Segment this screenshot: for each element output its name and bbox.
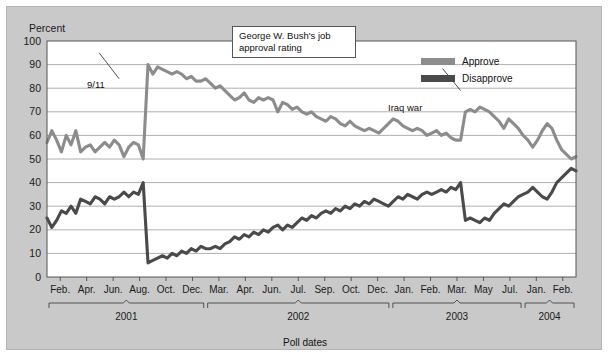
x-tick-label: Jun. xyxy=(104,284,123,295)
x-tick-marks xyxy=(60,277,563,281)
y-tick-label: 0 xyxy=(35,271,41,283)
legend-label-approve: Approve xyxy=(462,56,499,67)
x-tick-label: Jul. xyxy=(502,284,518,295)
y-axis-label: Percent xyxy=(29,22,65,34)
legend-item-approve: Approve xyxy=(421,53,541,70)
x-tick-label: Dec. xyxy=(182,284,203,295)
legend: Approve Disapprove xyxy=(421,53,541,87)
chart-title-line2: approval rating xyxy=(239,42,350,54)
y-tick-labels: 0102030405060708090100 xyxy=(23,35,41,283)
y-tick-label: 60 xyxy=(29,129,41,141)
x-tick-label: Dec. xyxy=(367,284,388,295)
x-tick-label: Mar. xyxy=(209,284,228,295)
legend-swatch-disapprove xyxy=(421,75,455,82)
chart-title-line1: George W. Bush's job xyxy=(239,30,350,42)
y-tick-label: 30 xyxy=(29,200,41,212)
y-tick-label: 50 xyxy=(29,153,41,165)
x-tick-label: May xyxy=(474,284,493,295)
annotation-iraq-war: Iraq war xyxy=(388,102,422,113)
x-tick-label: Mar. xyxy=(447,284,466,295)
y-tick-label: 100 xyxy=(23,35,41,47)
figure-panel: 0102030405060708090100 Feb.Apr.Jun.Aug.O… xyxy=(6,6,602,350)
year-group-label: 2003 xyxy=(446,311,469,322)
x-axis-label: Poll dates xyxy=(7,337,603,348)
y-tick-label: 40 xyxy=(29,176,41,188)
x-tick-label: Apr. xyxy=(236,284,254,295)
chart-title-box: George W. Bush's job approval rating xyxy=(232,26,356,58)
legend-swatch-approve xyxy=(421,58,455,65)
annotation-911: 9/11 xyxy=(87,79,105,90)
x-tick-label: Feb. xyxy=(421,284,441,295)
x-tick-label: Apr. xyxy=(78,284,96,295)
x-tick-label: Jan. xyxy=(395,284,414,295)
x-tick-label: Feb. xyxy=(553,284,573,295)
y-tick-label: 20 xyxy=(29,223,41,235)
x-tick-labels: Feb.Apr.Jun.Aug.Oct.Dec.Mar.Apr.Jun.Jul.… xyxy=(50,284,573,295)
year-group-label: 2002 xyxy=(287,311,310,322)
x-tick-label: Oct. xyxy=(157,284,175,295)
x-tick-label: Jan. xyxy=(527,284,546,295)
legend-item-disapprove: Disapprove xyxy=(421,70,541,87)
y-tick-label: 70 xyxy=(29,105,41,117)
x-tick-label: Jun. xyxy=(262,284,281,295)
x-tick-label: Jul. xyxy=(290,284,306,295)
year-group-label: 2004 xyxy=(538,311,561,322)
year-brackets: 2001200220032004 xyxy=(49,300,574,322)
x-tick-label: Oct. xyxy=(342,284,360,295)
year-group-label: 2001 xyxy=(115,311,138,322)
y-tick-label: 90 xyxy=(29,58,41,70)
x-tick-label: Aug. xyxy=(129,284,150,295)
x-tick-label: Feb. xyxy=(50,284,70,295)
y-tick-label: 80 xyxy=(29,82,41,94)
x-tick-label: Sep. xyxy=(314,284,335,295)
y-tick-label: 10 xyxy=(29,247,41,259)
legend-label-disapprove: Disapprove xyxy=(462,73,513,84)
